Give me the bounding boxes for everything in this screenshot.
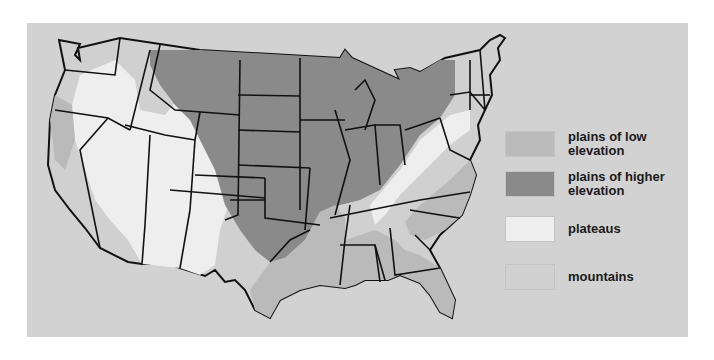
legend-swatch-plateaus — [505, 216, 555, 242]
legend-label-mountains: mountains — [568, 270, 634, 284]
legend-label-low-plains: plains of low elevation — [568, 130, 647, 158]
legend-item-mountains: mountains — [505, 264, 634, 290]
map-legend: plains of low elevation plains of higher… — [505, 0, 695, 360]
legend-item-plateaus: plateaus — [505, 216, 621, 242]
legend-label-high-plains: plains of higher elevation — [568, 170, 665, 198]
legend-item-high-plains: plains of higher elevation — [505, 170, 665, 198]
legend-label-plateaus: plateaus — [568, 222, 621, 236]
legend-item-low-plains: plains of low elevation — [505, 130, 647, 158]
legend-swatch-low-plains — [505, 131, 555, 157]
legend-swatch-high-plains — [505, 171, 555, 197]
legend-swatch-mountains — [505, 264, 555, 290]
